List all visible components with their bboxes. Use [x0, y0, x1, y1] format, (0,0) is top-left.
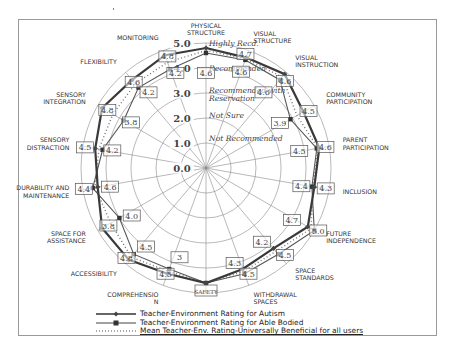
legend-item-mean: Mean Teacher-Env. Rating-Universally Ben… — [96, 327, 436, 336]
axis-label: STRUCTURE — [187, 29, 225, 36]
square-line-marker-icon — [96, 319, 136, 327]
value-box-text: 4.6 — [104, 183, 117, 192]
axis-label: SPACE — [295, 267, 315, 274]
ring-tick-label: 2.0 — [173, 113, 190, 124]
axis-label: COMMUNITY — [326, 91, 365, 98]
value-box-text: 4.6 — [257, 88, 270, 97]
axis-label: DISTRACTION — [27, 144, 70, 151]
value-box-text: 4.2 — [169, 69, 182, 78]
diamond-marker — [95, 185, 100, 190]
value-box-text: 3.9 — [274, 119, 287, 128]
zone-label: Not Sure — [208, 111, 244, 120]
legend-label: Mean Teacher-Env. Rating-Universally Ben… — [140, 327, 363, 336]
axis-label: N — [154, 298, 159, 305]
value-box-text: 5.0 — [312, 227, 325, 236]
axis-label: COMPREHENSIO — [107, 291, 158, 298]
ring-tick-label: 5.0 — [173, 38, 190, 49]
axis-label: FUTURE — [326, 230, 351, 237]
axis-label: INCLUSION — [343, 188, 378, 195]
value-box-text: 4.3 — [228, 259, 241, 268]
value-box-text: 4.5 — [242, 270, 255, 279]
axis-label: PHYSICAL — [191, 22, 222, 29]
axis-label: INSTRUCTION — [295, 61, 338, 68]
dotted-line-marker-icon — [96, 327, 136, 335]
value-box-text: 4.6 — [319, 143, 332, 152]
value-box-text: 4.8 — [161, 52, 174, 61]
axis-label: MAINTENANCE — [23, 192, 69, 199]
square-marker — [288, 117, 292, 121]
axis-label: STANDARDS — [295, 274, 334, 281]
value-box-text: 4.6 — [200, 69, 213, 78]
axis-label: SPACES — [253, 298, 277, 305]
value-box-text: 4.8 — [120, 254, 133, 263]
axis-label: FLEXIBILITY — [80, 58, 117, 65]
value-box-text: 4.5 — [159, 270, 172, 279]
zone-label: Not Recommended — [208, 134, 283, 143]
axis-label: INTEGRATION — [43, 98, 86, 105]
axis-label: VISUAL — [253, 30, 276, 37]
value-box-text: 4.8 — [101, 106, 114, 115]
value-boxes: 4.64.74.64.64.64.53.94.64.54.44.34.75.04… — [75, 49, 334, 296]
axis-label: WITHDRAWAL — [253, 291, 297, 298]
axis-label: STRUCTURE — [253, 37, 291, 44]
value-box-text: 4.6 — [127, 78, 140, 87]
value-box-text: 4.5 — [279, 251, 292, 260]
ring-tick-label: 0.0 — [173, 163, 190, 174]
ring-tick-label: 1.0 — [173, 138, 190, 149]
value-box-text: 4.5 — [140, 243, 153, 252]
value-box-text: 3.8 — [125, 118, 138, 127]
value-box-text: 4.2 — [142, 88, 155, 97]
axis-labels: PHYSICALSTRUCTUREVISUALSTRUCTUREVISUALIN… — [16, 22, 389, 305]
value-box-text: 4.7 — [239, 50, 252, 59]
axis-label: ASSISTANCE — [47, 237, 86, 244]
value-box-text: 4.6 — [279, 77, 292, 86]
axis-label: DURABILITY AND — [16, 184, 69, 191]
diamond-marker — [203, 45, 208, 50]
axis-label: MONITORING — [117, 34, 159, 41]
value-box-text: 4.6 — [235, 68, 248, 77]
value-box-text: 4.2 — [256, 238, 269, 247]
diamond-line-marker-icon — [96, 310, 136, 318]
value-box-text: 4.4 — [295, 182, 308, 191]
value-box-text: 4.2 — [106, 146, 119, 155]
square-marker — [204, 51, 208, 55]
value-box-text: 4.0 — [125, 212, 138, 221]
axis-label: ACCESSIBILITY — [71, 270, 117, 277]
axis-label: PARTICIPATION — [343, 144, 389, 151]
axis-label: VISUAL — [295, 54, 318, 61]
value-box-text: 4.7 — [285, 216, 298, 225]
value-box-text: 4.5 — [293, 147, 306, 156]
value-box-text: 4.4 — [77, 185, 90, 194]
ring-tick-label: 3.0 — [173, 88, 190, 99]
value-box-text: 4.3 — [319, 184, 332, 193]
axis-label: INDEPENDENCE — [326, 237, 376, 244]
axis-label: PARENT — [343, 136, 368, 143]
value-box-text: 3.8 — [102, 222, 115, 231]
square-marker — [117, 216, 121, 220]
value-box-text: 3 — [177, 253, 182, 262]
zone-label: Reservation — [208, 94, 255, 103]
radar-chart: Highly Recd.RecommendedRecommended withR… — [0, 0, 456, 355]
axis-label: SENSORY — [56, 91, 86, 98]
zone-label: Highly Recd. — [208, 39, 259, 48]
value-box-text: 4.5 — [79, 143, 92, 152]
legend: Teacher-Environment Rating for Autism Te… — [96, 310, 436, 336]
value-box-text: 4.5 — [302, 107, 315, 116]
axis-label: PARTICIPATION — [326, 98, 372, 105]
axis-label: SENSORY — [40, 136, 70, 143]
axis-label: SPACE FOR — [51, 230, 87, 237]
value-box-text: SAFETY — [194, 289, 218, 295]
